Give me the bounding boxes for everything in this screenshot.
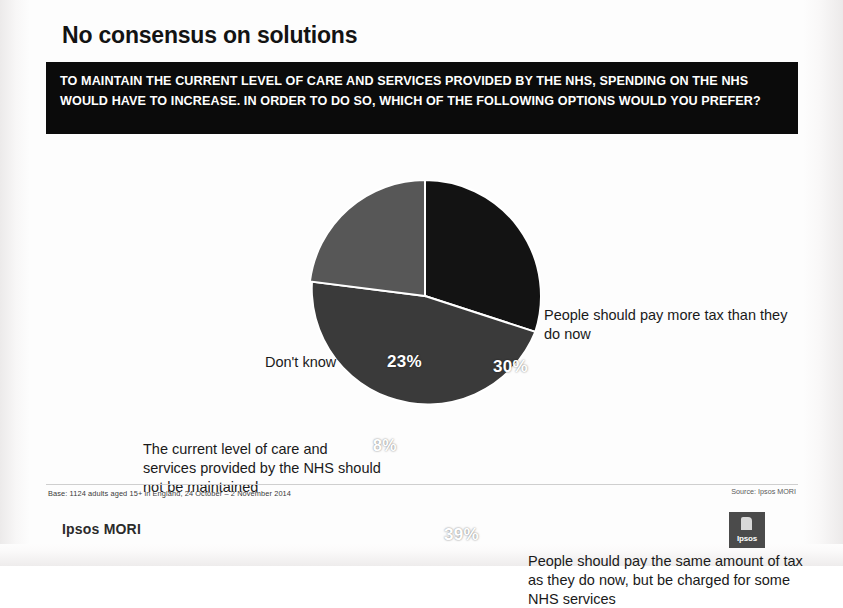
slice-value-pay-same-charged: 39% [444, 525, 479, 545]
source-note: Source: Ipsos MORI [731, 487, 796, 496]
callout-pay-more-tax: People should pay more tax than they do … [544, 306, 794, 344]
pie-slice-dont-know[interactable] [310, 180, 425, 296]
ipsos-logo-text: Ipsos [737, 534, 757, 543]
callout-dont-know: Don't know [265, 353, 425, 372]
slice-value-pay-more-tax: 30% [493, 357, 528, 377]
question-banner: TO MAINTAIN THE CURRENT LEVEL OF CARE AN… [46, 62, 798, 134]
scan-edge-left [0, 0, 30, 566]
brand-wordmark: Ipsos MORI [62, 521, 141, 537]
question-text: TO MAINTAIN THE CURRENT LEVEL OF CARE AN… [60, 71, 784, 111]
ipsos-logo-mark-icon [741, 517, 752, 530]
pie-chart: 30% 39% 23% 8% People should pay more ta… [46, 140, 798, 480]
scan-edge-right [803, 0, 843, 566]
base-note: Base: 1124 adults aged 15+ in England, 2… [48, 489, 291, 498]
footer-divider [46, 484, 798, 485]
callout-pay-same-charged: People should pay the same amount of tax… [528, 552, 808, 608]
pie-graphic [309, 180, 541, 412]
pie-svg [309, 180, 541, 412]
ipsos-logo: Ipsos [729, 512, 765, 548]
page-title: No consensus on solutions [62, 22, 357, 49]
